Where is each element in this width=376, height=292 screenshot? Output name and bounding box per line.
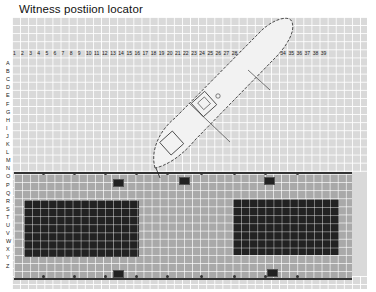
vessel-icon[interactable] <box>0 0 376 292</box>
